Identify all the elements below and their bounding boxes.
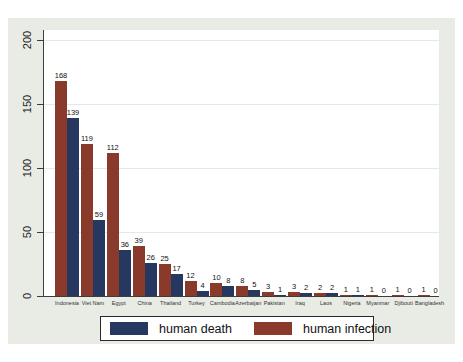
x-category-label-China: China bbox=[138, 300, 152, 306]
y-axis-tick-50 bbox=[37, 232, 43, 233]
bar-value-label: 1 bbox=[356, 286, 360, 294]
scanned-bar-chart-figure: 168139Indonesia11959Viet Nam11236Egypt39… bbox=[0, 0, 463, 362]
x-category-label-Azerbaijan: Azerbaijan bbox=[235, 300, 261, 306]
bar-human-infection-Cambodia bbox=[210, 283, 222, 296]
bar-value-label: 26 bbox=[147, 254, 155, 262]
bar-human-infection-Nigeria bbox=[340, 295, 352, 296]
x-category-label-Egypt: Egypt bbox=[112, 300, 126, 306]
bar-value-label: 36 bbox=[121, 241, 129, 249]
bar-human-death-Iraq bbox=[300, 293, 312, 296]
bar-value-label: 25 bbox=[160, 255, 168, 263]
bar-value-label: 168 bbox=[55, 72, 68, 80]
bar-value-label: 1 bbox=[278, 286, 282, 294]
x-category-label-Iraq: Iraq bbox=[295, 300, 304, 306]
bar-value-label: 0 bbox=[434, 287, 438, 295]
y-axis-tick-label-0: 0 bbox=[21, 293, 33, 299]
gridline-y-200 bbox=[44, 40, 439, 41]
bar-value-label: 0 bbox=[382, 287, 386, 295]
gridline-y-100 bbox=[44, 168, 439, 169]
x-category-label-Nigeria: Nigeria bbox=[343, 300, 360, 306]
bar-value-label: 8 bbox=[240, 277, 244, 285]
bar-human-infection-Indonesia bbox=[55, 81, 67, 296]
legend-label-human-death: human death bbox=[159, 322, 232, 336]
bar-human-infection-Pakistan bbox=[262, 292, 274, 296]
x-category-label-Djibouti: Djibouti bbox=[395, 300, 413, 306]
bar-human-death-Thailand bbox=[171, 274, 183, 296]
bar-human-death-Indonesia bbox=[67, 118, 79, 296]
bar-human-death-Nigeria bbox=[352, 295, 364, 296]
bar-human-death-Laos bbox=[326, 293, 338, 296]
y-axis-tick-100 bbox=[37, 168, 43, 169]
bar-human-infection-Thailand bbox=[159, 264, 171, 296]
bar-human-infection-Djibouti bbox=[392, 295, 404, 296]
bar-human-death-Cambodia bbox=[222, 286, 234, 296]
x-category-label-Cambodia: Cambodia bbox=[210, 300, 235, 306]
x-category-label-Turkey: Turkey bbox=[188, 300, 205, 306]
bar-human-infection-Egypt bbox=[107, 153, 119, 296]
bar-human-death-Pakistan bbox=[274, 295, 286, 296]
bar-value-label: 2 bbox=[304, 284, 308, 292]
y-axis-tick-150 bbox=[37, 104, 43, 105]
bar-human-death-Azerbaijan bbox=[248, 290, 260, 296]
legend-item-human-infection: human infection bbox=[254, 322, 391, 336]
bar-value-label: 2 bbox=[330, 284, 334, 292]
bar-value-label: 1 bbox=[344, 286, 348, 294]
y-axis-tick-0 bbox=[37, 296, 43, 297]
bar-value-label: 4 bbox=[200, 282, 204, 290]
bar-human-infection-Azerbaijan bbox=[236, 286, 248, 296]
bar-human-infection-Laos bbox=[314, 293, 326, 296]
bar-human-death-Turkey bbox=[197, 291, 209, 296]
bar-human-infection-Turkey bbox=[185, 281, 197, 296]
bar-value-label: 59 bbox=[95, 211, 103, 219]
bar-human-infection-Iraq bbox=[288, 292, 300, 296]
y-axis-tick-200 bbox=[37, 40, 43, 41]
bar-value-label: 1 bbox=[396, 286, 400, 294]
y-axis-tick-label-150: 150 bbox=[21, 95, 33, 113]
bar-value-label: 5 bbox=[252, 281, 256, 289]
x-category-label-Indonesia: Indonesia bbox=[55, 300, 79, 306]
bar-human-death-China bbox=[145, 263, 157, 296]
bar-value-label: 3 bbox=[266, 283, 270, 291]
x-category-label-Laos: Laos bbox=[320, 300, 332, 306]
bar-value-label: 17 bbox=[172, 265, 180, 273]
y-axis-tick-label-50: 50 bbox=[21, 226, 33, 238]
bar-value-label: 1 bbox=[422, 286, 426, 294]
legend-swatch-human-death bbox=[110, 322, 148, 335]
x-category-label-Myanmar: Myanmar bbox=[366, 300, 389, 306]
y-axis-tick-label-200: 200 bbox=[21, 31, 33, 49]
x-category-label-Pakistan: Pakistan bbox=[264, 300, 285, 306]
bar-value-label: 0 bbox=[408, 287, 412, 295]
x-category-label-Viet-Nam: Viet Nam bbox=[82, 300, 105, 306]
legend-label-human-infection: human infection bbox=[303, 322, 391, 336]
bar-human-infection-Bangladesh bbox=[418, 295, 430, 296]
bar-human-infection-Viet-Nam bbox=[81, 144, 93, 296]
gridline-y-150 bbox=[44, 104, 439, 105]
bar-value-label: 2 bbox=[318, 284, 322, 292]
bar-human-infection-Myanmar bbox=[366, 295, 378, 296]
bar-value-label: 1 bbox=[370, 286, 374, 294]
legend-swatch-human-infection bbox=[254, 322, 292, 335]
bar-value-label: 10 bbox=[212, 274, 220, 282]
bar-human-death-Egypt bbox=[119, 250, 131, 296]
legend-item-human-death: human death bbox=[110, 322, 232, 336]
bar-value-label: 3 bbox=[292, 283, 296, 291]
x-category-label-Bangladesh: Bangladesh bbox=[415, 300, 444, 306]
bar-value-label: 139 bbox=[67, 109, 80, 117]
x-category-label-Thailand: Thailand bbox=[160, 300, 181, 306]
bar-value-label: 8 bbox=[226, 277, 230, 285]
bar-value-label: 12 bbox=[186, 272, 194, 280]
bar-value-label: 112 bbox=[107, 144, 119, 152]
bar-value-label: 39 bbox=[135, 237, 143, 245]
bar-value-label: 119 bbox=[81, 135, 93, 143]
bar-human-death-Viet-Nam bbox=[93, 220, 105, 296]
y-axis-tick-label-100: 100 bbox=[21, 159, 33, 177]
legend: human death human infection bbox=[100, 316, 374, 341]
bar-human-infection-China bbox=[133, 246, 145, 296]
plot-area: 168139Indonesia11959Viet Nam11236Egypt39… bbox=[43, 30, 439, 297]
